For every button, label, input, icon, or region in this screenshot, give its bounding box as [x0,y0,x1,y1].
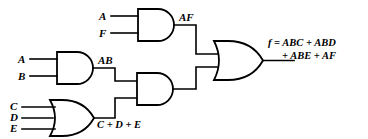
signal-label-cde: C + D + E [97,120,141,131]
wire-and-mid-to-or-final [173,67,218,89]
and-gate-mid-body [137,73,173,105]
input-label-a-top: A [99,11,106,22]
output-expression: f = ABC + ABD + ABE + AF [268,36,368,62]
or-gate-final-body [214,41,263,80]
output-expression-line-2: + ABE + AF [268,49,368,62]
input-label-f-top: F [99,28,106,39]
wire-ab-to-and-mid [93,68,137,81]
signal-label-af: AF [179,12,194,23]
wire-cde-to-and-mid [94,98,137,118]
wire-af-to-or-final [174,25,218,54]
logic-circuit-diagram: A F A B C D E AF AB C + D + E f = ABC + … [0,0,368,139]
input-label-a-mid: A [18,54,25,65]
and-gate-ab-body [57,52,93,84]
or-gate-cde-body [50,100,94,136]
output-expression-line-1: f = ABC + ABD [268,36,368,49]
input-label-e: E [10,123,17,134]
and-gate-af-body [138,9,174,41]
input-label-b-mid: B [18,71,25,82]
signal-label-ab: AB [98,55,113,66]
